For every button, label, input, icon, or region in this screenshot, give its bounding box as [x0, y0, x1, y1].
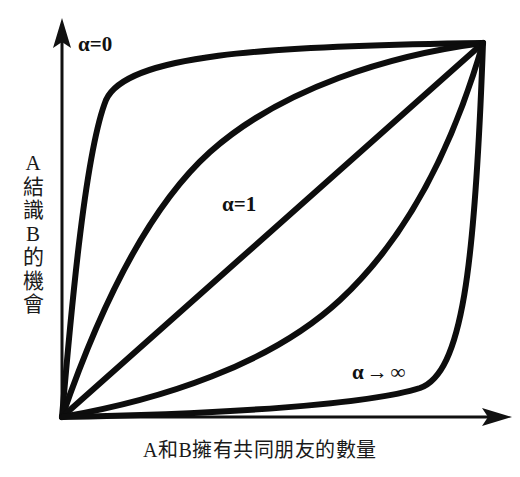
- infinity-symbol: ∞: [391, 360, 406, 384]
- curves-group: [62, 43, 483, 417]
- curve-alpha-1: [62, 43, 483, 417]
- y-axis-title-char: B: [16, 223, 50, 247]
- y-axis-title-char: 結: [16, 176, 50, 200]
- curve-label-alpha-one: α=1: [222, 194, 256, 215]
- alpha-symbol: α: [352, 360, 364, 384]
- curve-label-alpha-infinity: α→∞: [352, 362, 406, 383]
- y-axis-title-char: 機: [16, 270, 50, 294]
- y-axis-title-char: A: [16, 152, 50, 176]
- chart-figure: α=0 α=1 α→∞ A 結 識 B 的 機 會 A和B擁有共同朋友的數量: [0, 0, 520, 477]
- y-axis-title-char: 會: [16, 293, 50, 317]
- y-axis-title-char: 識: [16, 199, 50, 223]
- y-axis-title-char: 的: [16, 246, 50, 270]
- right-arrow-icon: →: [364, 360, 391, 384]
- x-axis-title: A和B擁有共同朋友的數量: [0, 440, 520, 460]
- y-axis-title: A 結 識 B 的 機 會: [16, 152, 50, 317]
- curve-label-alpha-zero: α=0: [78, 34, 112, 55]
- chart-canvas: [0, 0, 520, 477]
